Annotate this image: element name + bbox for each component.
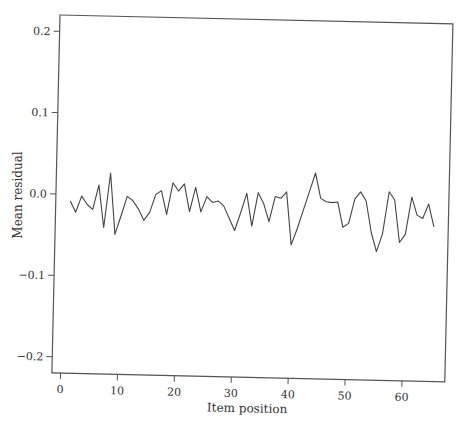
y-tick-label: −0.1 [18, 268, 45, 282]
y-axis-label: Mean residual [11, 151, 25, 238]
x-tick-label: 40 [281, 388, 295, 401]
x-tick-label: 20 [167, 386, 181, 399]
y-tick-label: −0.2 [16, 350, 43, 364]
data-line [69, 167, 435, 252]
x-tick-label: 0 [57, 383, 64, 396]
x-axis: 0102030405060 [57, 373, 409, 404]
x-tick-label: 30 [224, 387, 238, 400]
x-axis-label: Item position [207, 400, 288, 416]
x-tick-label: 60 [394, 391, 408, 404]
x-tick-label: 50 [338, 389, 352, 402]
y-tick-label: 0.0 [29, 187, 47, 200]
y-tick-label: 0.2 [33, 25, 51, 38]
line-chart: −0.2−0.10.00.10.2 0102030405060 Item pos… [0, 0, 462, 425]
y-tick-label: 0.1 [31, 106, 49, 119]
x-tick-label: 10 [110, 384, 124, 397]
